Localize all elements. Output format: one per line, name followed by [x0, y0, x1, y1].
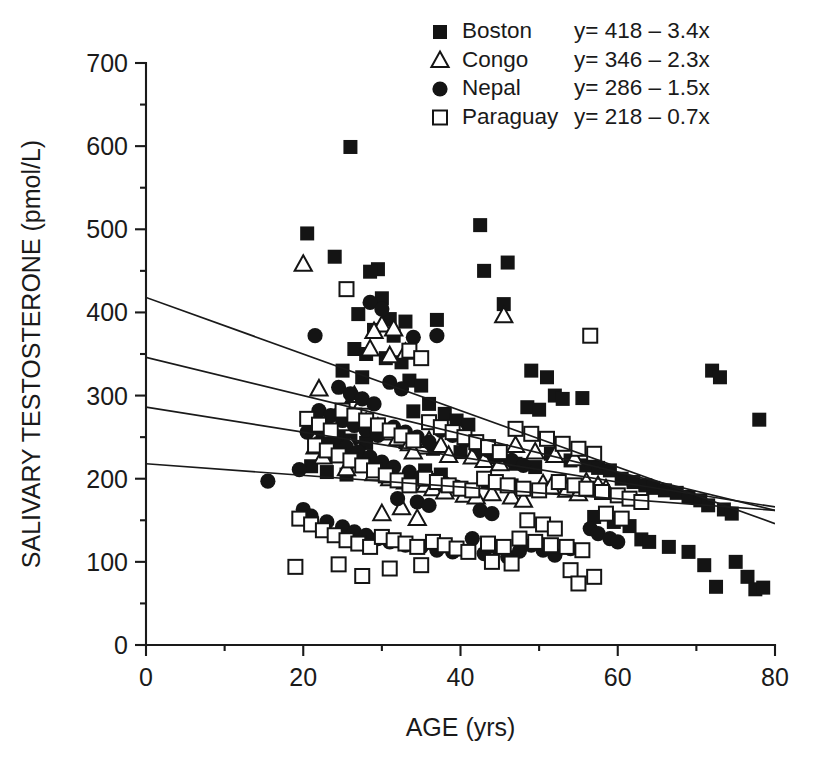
- data-point: [524, 364, 538, 378]
- data-point: [409, 510, 426, 526]
- data-point: [366, 396, 381, 411]
- x-tick-label: 20: [289, 663, 317, 691]
- legend-marker-nepal: [432, 81, 447, 96]
- data-point: [343, 140, 357, 154]
- legend-label-boston: Boston: [462, 18, 532, 43]
- data-point: [363, 265, 377, 279]
- data-point: [587, 570, 601, 584]
- data-point: [295, 255, 312, 271]
- x-axis-title: AGE (yrs): [406, 713, 516, 741]
- legend-equation-boston: y= 418 – 3.4x: [574, 18, 710, 43]
- y-axis-title: SALIVARY TESTOSTERONE (pmol/L): [17, 140, 45, 568]
- data-point: [583, 329, 597, 343]
- data-point: [414, 351, 428, 365]
- data-point: [729, 555, 743, 569]
- legend-equation-nepal: y= 286 – 1.5x: [574, 75, 710, 100]
- x-tick-label: 60: [604, 663, 632, 691]
- data-point: [752, 413, 766, 427]
- data-point: [410, 540, 424, 554]
- data-point: [505, 557, 519, 571]
- y-tick-label: 400: [86, 298, 128, 326]
- data-point: [599, 507, 613, 521]
- points-layer: [260, 140, 770, 596]
- legend-marker-congo: [431, 52, 448, 68]
- data-point: [532, 483, 546, 497]
- data-point: [383, 562, 397, 576]
- data-point: [307, 328, 322, 343]
- data-point: [548, 522, 562, 536]
- data-point: [421, 435, 436, 450]
- data-point: [634, 495, 648, 509]
- data-point: [564, 563, 578, 577]
- x-tick-label: 0: [139, 663, 153, 691]
- data-point: [528, 535, 542, 549]
- data-point: [662, 540, 676, 554]
- legend-label-congo: Congo: [462, 47, 528, 72]
- data-point: [414, 558, 428, 572]
- data-point: [402, 478, 416, 492]
- data-point: [610, 534, 625, 549]
- data-point: [373, 505, 390, 521]
- data-point: [575, 543, 589, 557]
- data-point: [532, 403, 546, 417]
- data-point: [579, 482, 593, 496]
- data-point: [473, 218, 487, 232]
- data-point: [615, 512, 629, 526]
- y-tick-label: 300: [86, 382, 128, 410]
- y-tick-label: 500: [86, 215, 128, 243]
- data-point: [520, 513, 534, 527]
- data-point: [398, 315, 412, 329]
- data-point: [374, 302, 389, 317]
- y-tick-label: 0: [114, 631, 128, 659]
- data-point: [461, 545, 475, 559]
- data-point: [544, 538, 558, 552]
- data-point: [351, 307, 365, 321]
- data-point: [339, 282, 353, 296]
- data-point: [477, 264, 491, 278]
- legend-label-nepal: Nepal: [462, 75, 521, 100]
- data-point: [430, 313, 444, 327]
- y-tick-label: 100: [86, 548, 128, 576]
- data-point: [406, 404, 420, 418]
- data-point: [414, 379, 428, 393]
- scatter-figure: 0100200300400500600700020406080AGE (yrs)…: [0, 0, 826, 758]
- x-tick-label: 40: [447, 663, 475, 691]
- data-point: [642, 535, 656, 549]
- data-point: [421, 498, 436, 513]
- data-point: [756, 581, 770, 595]
- data-point: [575, 391, 589, 405]
- legend-equation-paraguay: y= 218 – 0.7x: [574, 104, 710, 129]
- data-point: [560, 540, 574, 554]
- data-point: [355, 569, 369, 583]
- legend-label-paraguay: Paraguay: [462, 104, 559, 129]
- legend: Bostony= 418 – 3.4xCongoy= 346 – 2.3xNep…: [431, 18, 710, 129]
- chart-canvas: 0100200300400500600700020406080AGE (yrs)…: [0, 0, 826, 758]
- legend-marker-paraguay: [433, 111, 447, 125]
- data-point: [332, 557, 346, 571]
- legend-equation-congo: y= 346 – 2.3x: [574, 47, 710, 72]
- legend-marker-boston: [433, 25, 447, 39]
- data-point: [697, 558, 711, 572]
- data-point: [552, 475, 566, 489]
- data-point: [328, 250, 342, 264]
- y-tick-label: 200: [86, 465, 128, 493]
- data-point: [501, 256, 515, 270]
- data-point: [682, 545, 696, 559]
- data-point: [484, 506, 499, 521]
- data-point: [406, 433, 420, 447]
- data-point: [556, 392, 570, 406]
- data-point: [516, 482, 530, 496]
- data-point: [540, 370, 554, 384]
- data-point: [512, 532, 526, 546]
- data-point: [310, 380, 327, 396]
- data-point: [507, 436, 524, 452]
- data-point: [260, 474, 275, 489]
- data-point: [481, 537, 495, 551]
- y-tick-label: 700: [86, 49, 128, 77]
- data-point: [571, 576, 585, 590]
- data-point: [740, 570, 754, 584]
- data-point: [288, 560, 302, 574]
- data-point: [429, 328, 444, 343]
- data-point: [709, 580, 723, 594]
- data-point: [485, 555, 499, 569]
